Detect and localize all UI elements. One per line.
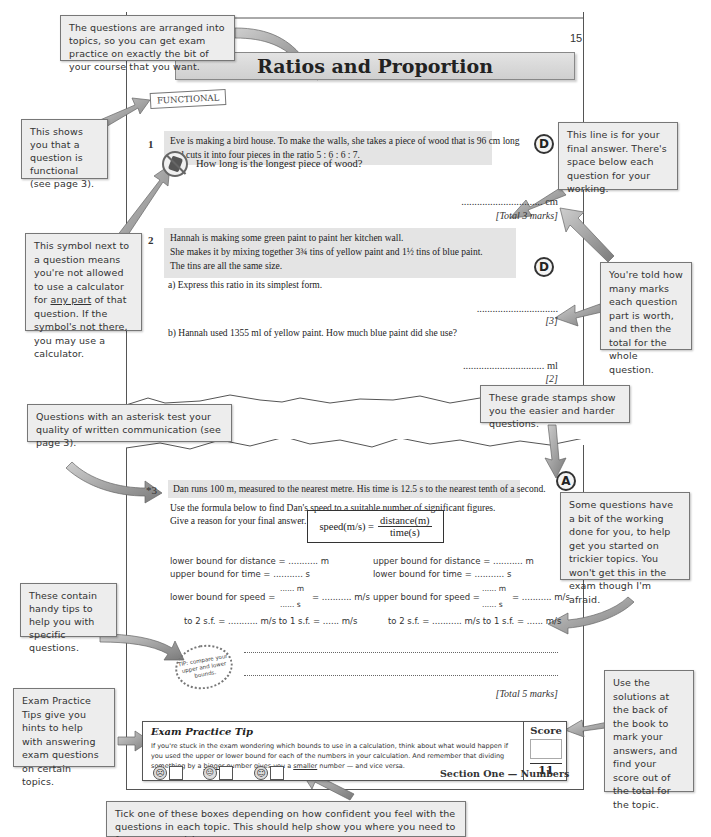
question-3-marks: [Total 5 marks]	[440, 688, 558, 699]
lower-bound-time[interactable]: lower bound for time = ........... s	[373, 569, 511, 579]
formula-lhs: speed(m/s) =	[319, 521, 374, 532]
question-2-line2: She makes it by mixing together 3¾ tins …	[170, 245, 510, 259]
tip-emphasis-smaller: smaller	[293, 762, 317, 770]
page-title-bar: Ratios and Proportion	[175, 52, 575, 80]
question-1-prompt: How long is the longest piece of wood?	[196, 157, 363, 171]
upper-bound-speed-label: upper bound for speed =	[373, 592, 480, 602]
confidence-neutral[interactable]: 😐	[203, 766, 233, 780]
page-title: Ratios and Proportion	[257, 55, 493, 77]
reason-answer-line-2[interactable]	[244, 675, 558, 676]
question-2-line1: Hannah is making some green paint to pai…	[170, 231, 510, 245]
tick-box-neutral[interactable]	[219, 766, 233, 780]
happy-face-icon: ☺	[254, 766, 268, 780]
callout-calculator: This symbol next to a question means you…	[25, 233, 142, 331]
lower-speed-denominator[interactable]: ...... s	[280, 600, 301, 609]
speed-formula: speed(m/s) = distance(m) time(s)	[307, 510, 444, 543]
callout-emphasis: any part	[50, 294, 91, 305]
callout-answer-line: This line is for your final answer. Ther…	[558, 122, 678, 190]
confidence-sad[interactable]: ☹	[153, 766, 183, 780]
lower-speed-sig-figs[interactable]: to 2 s.f. = ........... m/s to 1 s.f. = …	[184, 616, 357, 626]
callout-grade-stamps: These grade stamps show you the easier a…	[480, 385, 630, 423]
callout-asterisk: Questions with an asterisk test your qua…	[27, 404, 232, 442]
callout-topics: The questions are arranged into topics, …	[60, 15, 235, 61]
confidence-happy[interactable]: ☺	[254, 766, 284, 780]
callout-working: Some questions have a bit of the working…	[560, 492, 690, 580]
upper-speed-denominator[interactable]: ...... s	[482, 600, 503, 609]
question-2-stem: Hannah is making some green paint to pai…	[164, 228, 516, 278]
tick-box-sad[interactable]	[169, 766, 183, 780]
sad-face-icon: ☹	[153, 766, 167, 780]
upper-bound-time[interactable]: upper bound for time = ........... s	[170, 569, 310, 579]
tick-box-happy[interactable]	[270, 766, 284, 780]
callout-exam-tips: Exam Practice Tips give you hints to hel…	[13, 688, 115, 767]
grade-stamp-d-icon: D	[534, 257, 554, 277]
section-footer: Section One — Numbers	[440, 768, 569, 779]
question-2b-marks: [2]	[470, 373, 558, 384]
question-3-line3: Give a reason for your final answer.	[170, 514, 306, 528]
reason-answer-line-1[interactable]	[244, 652, 558, 653]
question-2a-prompt: a) Express this ratio in its simplest fo…	[168, 278, 322, 292]
callout-tick-boxes: Tick one of these boxes depending on how…	[106, 801, 466, 837]
upper-speed-numerator[interactable]: ...... m	[482, 584, 506, 593]
grade-stamp-d-icon: D	[534, 134, 554, 154]
neutral-face-icon: 😐	[203, 766, 217, 780]
grade-stamp-a-icon: A	[556, 471, 576, 491]
question-2b-answer-line[interactable]: ............................... ml	[440, 360, 558, 371]
callout-marks: You're told how many marks each question…	[600, 262, 692, 350]
upper-speed-sig-figs[interactable]: to 2 s.f. = ........... m/s to 1 s.f. = …	[388, 616, 561, 626]
question-1-line1: Eve is making a bird house. To make the …	[170, 134, 486, 148]
upper-speed-result[interactable]: = ........... m/s	[512, 592, 570, 602]
question-1-marks: [Total 3 marks]	[430, 210, 558, 221]
callout-solutions: Use the solutions at the back of the boo…	[604, 670, 694, 792]
question-2-line3: The tins are all the same size.	[170, 259, 510, 273]
formula-fraction: distance(m) time(s)	[378, 515, 432, 538]
page-number: 15	[570, 32, 582, 44]
callout-functional: This shows you that a question is functi…	[21, 119, 108, 179]
lower-bound-speed-label: lower bound for speed =	[170, 592, 275, 602]
formula-denominator: time(s)	[390, 527, 420, 538]
upper-bound-distance[interactable]: upper bound for distance = ........... m	[373, 556, 534, 566]
exam-practice-tip-title: Exam Practice Tip	[151, 726, 253, 737]
score-label: Score	[524, 725, 568, 736]
score-input[interactable]	[530, 739, 562, 759]
question-1-number: 1	[148, 138, 154, 150]
question-3-stem: Dan runs 100 m, measured to the nearest …	[168, 480, 520, 498]
lower-speed-numerator[interactable]: ...... m	[280, 584, 304, 593]
question-2b-prompt: b) Hannah used 1355 ml of yellow paint. …	[168, 326, 457, 340]
question-3-number: *3	[146, 484, 157, 496]
lower-bound-distance[interactable]: lower bound for distance = ........... m	[170, 556, 329, 566]
formula-numerator: distance(m)	[378, 515, 432, 527]
lower-speed-result[interactable]: = ........... m/s	[312, 592, 370, 602]
question-1-answer-line[interactable]: ............................... cm	[430, 196, 558, 207]
question-2a-marks: [3]	[470, 315, 558, 326]
question-2-number: 2	[148, 234, 154, 246]
question-2a-answer-line[interactable]: ...............................	[470, 303, 558, 314]
callout-tips: These contain handy tips to help you wit…	[20, 583, 117, 637]
no-calculator-icon	[162, 151, 188, 177]
tip-text: number — and vice versa.	[317, 762, 405, 770]
